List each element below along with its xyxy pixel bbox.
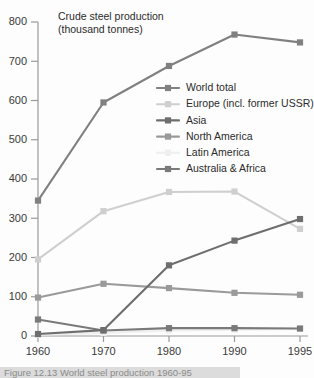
y-axis-tick-label: 400	[9, 172, 27, 184]
data-point-marker	[166, 325, 172, 331]
figure-caption-text: Figure 12.13 World steel production 1960…	[0, 367, 240, 378]
legend-label: Asia	[186, 114, 207, 126]
data-point-marker	[35, 294, 41, 300]
y-axis-tick-label: 200	[9, 251, 27, 263]
x-axis-tick-label: 1995	[288, 345, 312, 357]
legend-label: Europe (incl. former USSR)	[186, 97, 314, 109]
data-point-marker	[35, 256, 41, 262]
chart-container: 0100200300400500600700800 19601970198019…	[0, 0, 314, 378]
y-axis-tick-label: 800	[9, 15, 27, 27]
data-point-marker	[35, 316, 41, 322]
y-axis-tick-label: 700	[9, 55, 27, 67]
x-axis-tick-label: 1990	[222, 345, 246, 357]
data-point-marker	[35, 331, 41, 337]
data-point-marker	[166, 285, 172, 291]
legend-marker-icon	[165, 150, 171, 156]
data-point-marker	[166, 262, 172, 268]
data-point-marker	[100, 99, 106, 105]
legend-marker-icon	[165, 85, 171, 91]
x-axis-tick-label: 1970	[91, 345, 115, 357]
data-point-marker	[297, 216, 303, 222]
data-point-marker	[100, 281, 106, 287]
data-point-marker	[297, 292, 303, 298]
x-axis-tick-label: 1960	[26, 345, 50, 357]
data-point-marker	[231, 238, 237, 244]
legend-marker-icon	[165, 117, 171, 123]
y-axis-tick-label: 100	[9, 290, 27, 302]
data-point-marker	[166, 63, 172, 69]
crude-steel-production-line-chart: 0100200300400500600700800 19601970198019…	[0, 0, 314, 378]
data-point-marker	[166, 189, 172, 195]
data-point-marker	[100, 327, 106, 333]
data-point-marker	[297, 325, 303, 331]
data-point-marker	[297, 39, 303, 45]
legend-label: North America	[186, 130, 253, 142]
y-axis-tick-label: 300	[9, 212, 27, 224]
legend-marker-icon	[165, 134, 171, 140]
legend-marker-icon	[165, 101, 171, 107]
chart-title-line1: Crude steel production	[58, 10, 164, 22]
data-point-marker	[231, 31, 237, 37]
data-point-marker	[100, 208, 106, 214]
figure-caption: Figure 12.13 World steel production 1960…	[0, 367, 240, 378]
data-point-marker	[231, 325, 237, 331]
y-axis-tick-label: 0	[21, 329, 27, 341]
legend-label: Latin America	[186, 146, 250, 158]
legend-marker-icon	[165, 166, 171, 172]
data-point-marker	[231, 290, 237, 296]
x-axis-tick-label: 1980	[157, 345, 181, 357]
y-axis-tick-label: 500	[9, 133, 27, 145]
data-point-marker	[231, 188, 237, 194]
y-axis-tick-label: 600	[9, 94, 27, 106]
data-point-marker	[297, 226, 303, 232]
legend-label: World total	[186, 81, 236, 93]
legend-label: Australia & Africa	[186, 162, 266, 174]
data-point-marker	[35, 197, 41, 203]
chart-title-line2: (thousand tonnes)	[58, 23, 143, 35]
